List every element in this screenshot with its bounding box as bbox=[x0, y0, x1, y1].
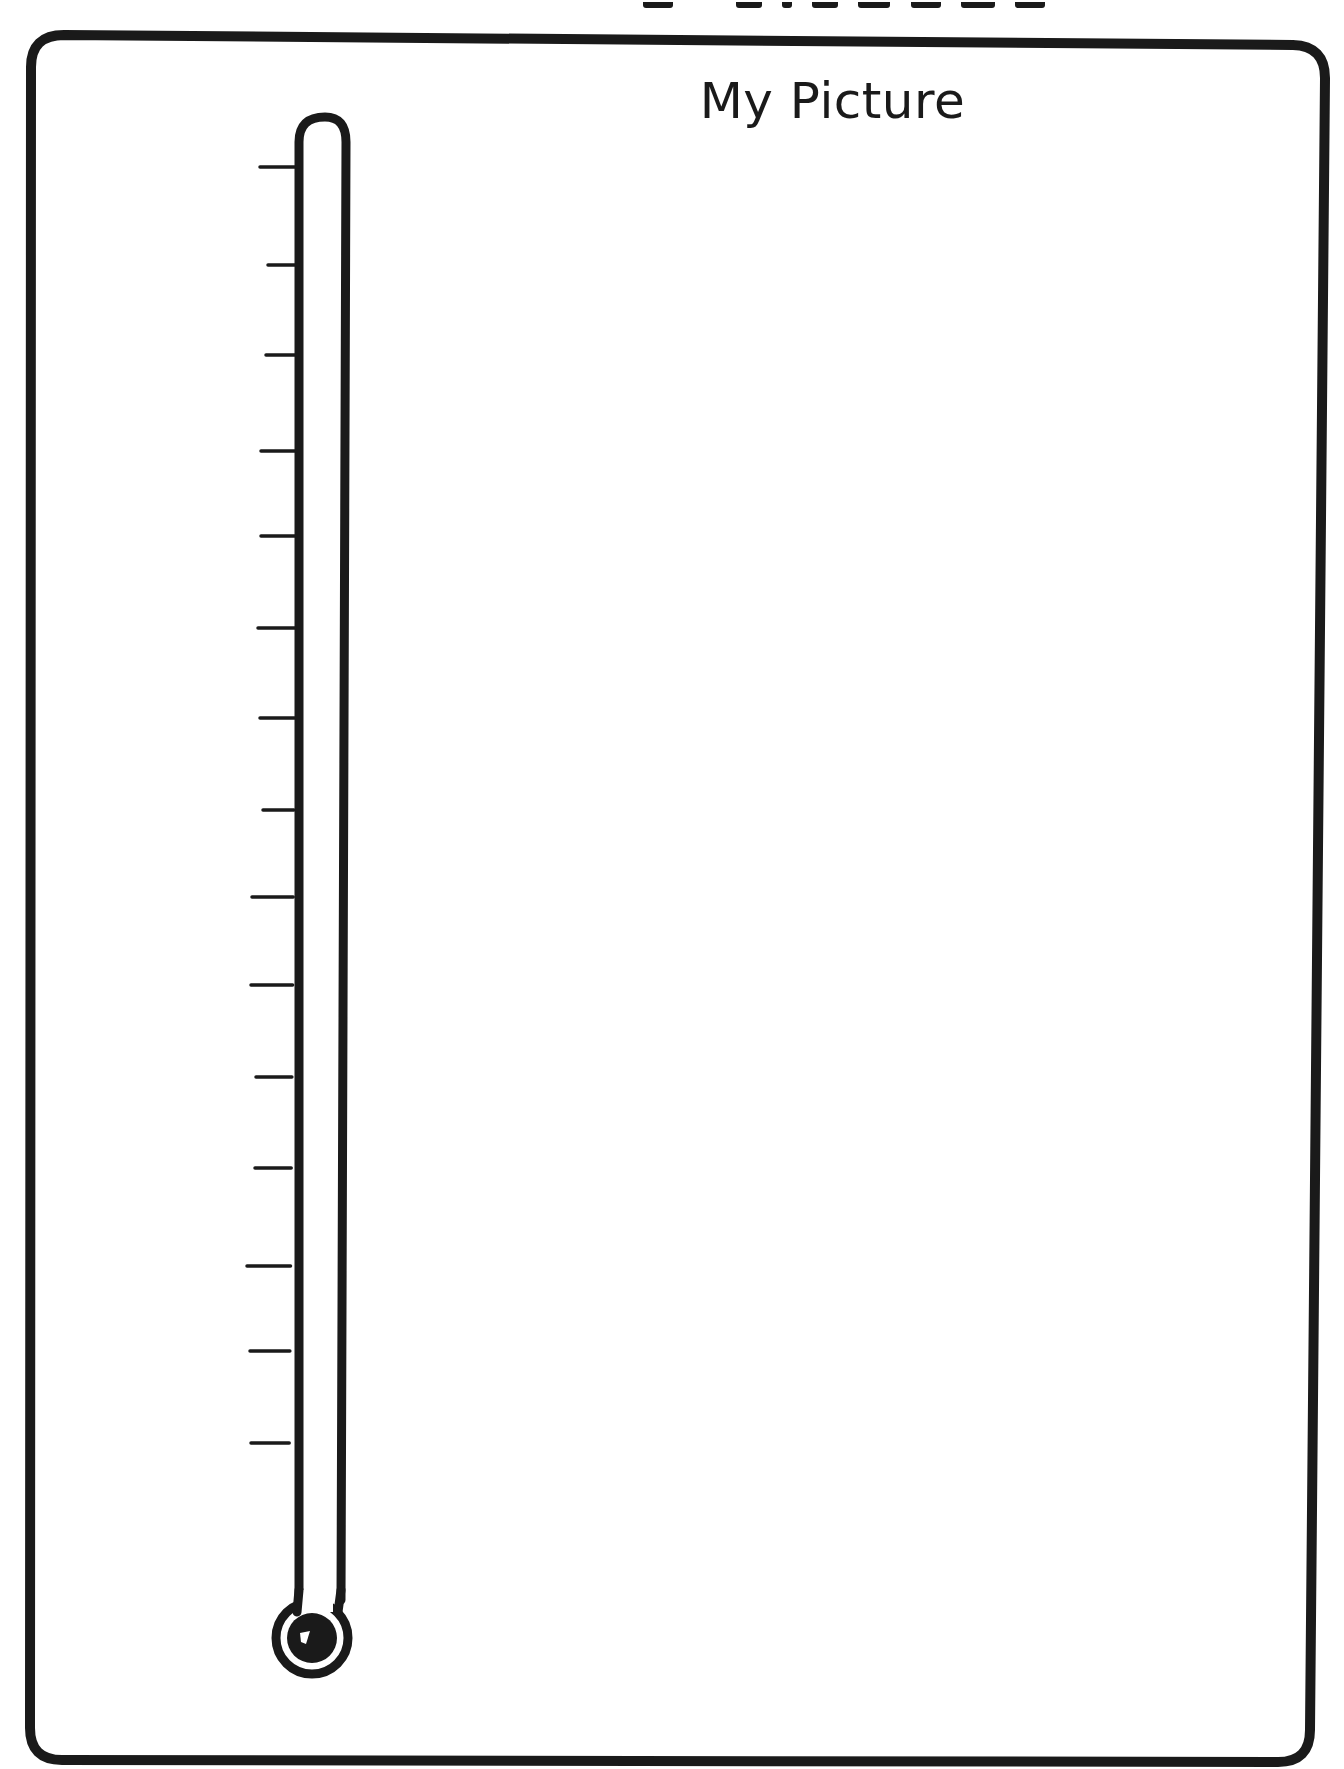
my-picture-label: My Picture bbox=[690, 70, 975, 132]
drawing-area[interactable] bbox=[390, 150, 1290, 1730]
thermometer-ticks bbox=[247, 167, 299, 1443]
thermometer-tube bbox=[299, 117, 346, 1600]
thermometer-icon bbox=[247, 117, 348, 1674]
thermometer-bulb-inner bbox=[287, 1613, 337, 1663]
